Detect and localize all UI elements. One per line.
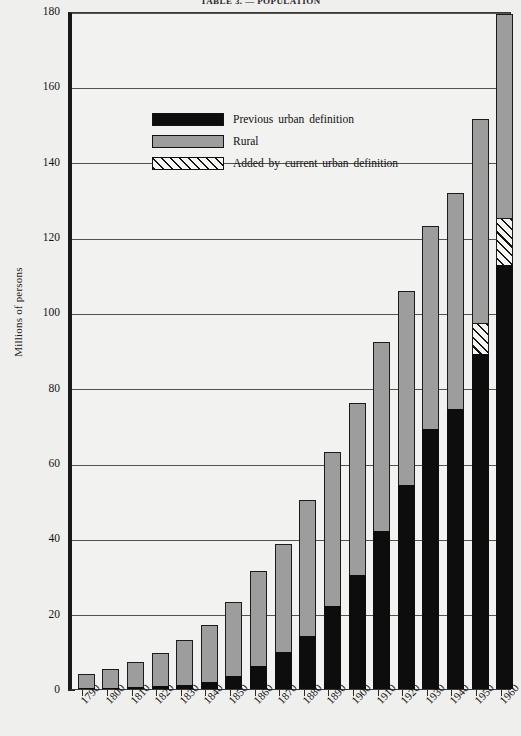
y-tick-label-100: 100 — [43, 306, 60, 318]
legend-item-previous-urban: Previous urban definition — [152, 109, 414, 129]
bar-segment-rural-1830 — [176, 640, 193, 689]
plot-area: Previous urban definition Rural Added by… — [68, 12, 511, 690]
bar-segment-previous-urban-1830 — [176, 685, 193, 689]
legend-item-rural: Rural — [152, 131, 414, 151]
bar-1790 — [78, 674, 95, 689]
bar-1820 — [152, 653, 169, 689]
legend-label-rural: Rural — [233, 135, 259, 147]
bar-1900 — [349, 403, 366, 689]
bar-segment-previous-urban-1860 — [250, 666, 267, 689]
bar-segment-previous-urban-1820 — [152, 686, 169, 689]
bar-1910 — [373, 342, 390, 689]
bar-segment-previous-urban-1940 — [447, 409, 464, 689]
bar-1860 — [250, 571, 267, 689]
bar-segment-previous-urban-1880 — [299, 636, 316, 689]
bar-1920 — [398, 291, 415, 689]
bar-1890 — [324, 452, 341, 689]
y-tick-label-20: 20 — [49, 608, 61, 620]
bar-segment-previous-urban-1950 — [472, 354, 489, 689]
y-tick-label-80: 80 — [49, 382, 61, 394]
bar-1950 — [472, 119, 489, 689]
bar-segment-rural-1840 — [201, 625, 218, 689]
bar-segment-rural-1810 — [127, 662, 144, 689]
bar-1940 — [447, 193, 464, 689]
bar-segment-previous-urban-1920 — [398, 485, 415, 689]
bar-1800 — [102, 669, 119, 689]
bar-1880 — [299, 500, 316, 689]
clipped-table-title: TABLE 3. — POPULATION — [0, 0, 521, 7]
y-axis-tick-labels: 020406080100120140160180 — [16, 12, 60, 690]
table-title-text: TABLE 3. — POPULATION — [0, 0, 521, 6]
legend-label-added-urban: Added by current urban definition — [233, 157, 398, 169]
y-tick-label-120: 120 — [43, 231, 60, 243]
chart-page: TABLE 3. — POPULATION Millions of person… — [0, 0, 521, 736]
x-axis-labels: 1790180018101820183018401850186018701880… — [68, 690, 511, 736]
bar-1930 — [422, 226, 439, 689]
y-tick-label-0: 0 — [54, 683, 60, 695]
legend-item-added-urban: Added by current urban definition — [152, 153, 414, 173]
y-tick-label-140: 140 — [43, 156, 60, 168]
bar-segment-previous-urban-1900 — [349, 575, 366, 689]
legend-swatch-gray-square — [152, 135, 224, 148]
legend-swatch-black-square — [152, 113, 224, 126]
bar-1810 — [127, 662, 144, 689]
bar-segment-previous-urban-1840 — [201, 682, 218, 689]
bar-1960 — [496, 14, 513, 689]
y-tick-label-180: 180 — [43, 5, 60, 17]
legend-label-previous-urban: Previous urban definition — [233, 113, 354, 125]
bar-1870 — [275, 544, 292, 689]
bar-segment-previous-urban-1790 — [78, 688, 95, 689]
bar-segment-previous-urban-1850 — [225, 676, 242, 689]
bar-segment-previous-urban-1960 — [496, 265, 513, 689]
y-tick-label-40: 40 — [49, 532, 61, 544]
y-tick-label-160: 160 — [43, 80, 60, 92]
bar-1830 — [176, 640, 193, 689]
bar-segment-previous-urban-1810 — [127, 687, 144, 689]
chart-legend: Previous urban definition Rural Added by… — [152, 109, 414, 175]
bar-segment-rural-1790 — [78, 674, 95, 689]
bar-segment-previous-urban-1870 — [275, 652, 292, 689]
y-tick-label-60: 60 — [49, 457, 61, 469]
bar-segment-rural-1800 — [102, 669, 119, 689]
bar-1850 — [225, 602, 242, 689]
bar-segment-previous-urban-1890 — [324, 606, 341, 689]
bar-segment-previous-urban-1910 — [373, 531, 390, 689]
bar-segment-previous-urban-1800 — [102, 688, 119, 689]
bar-1840 — [201, 625, 218, 689]
bar-segment-previous-urban-1930 — [422, 429, 439, 689]
bar-segment-rural-1820 — [152, 653, 169, 689]
legend-swatch-diagonal-hatch-square — [152, 157, 224, 170]
